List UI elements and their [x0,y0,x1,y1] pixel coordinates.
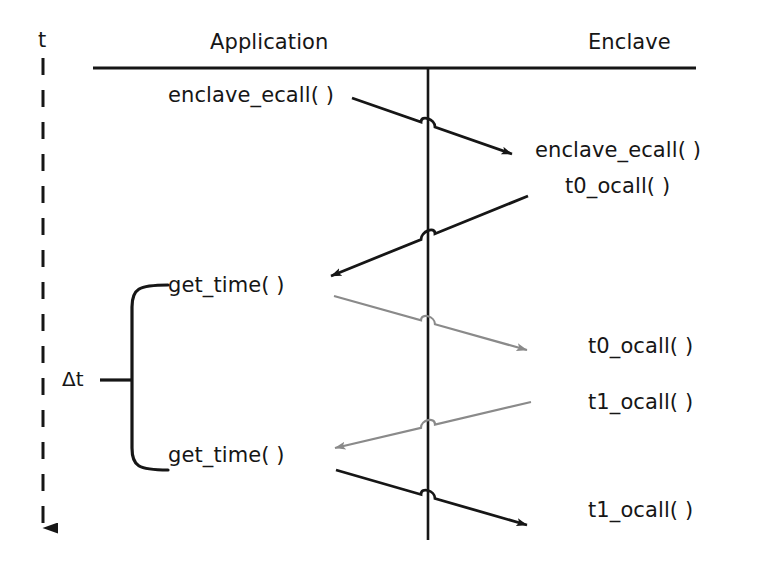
time-axis-label: t [38,30,46,51]
message-label-app-get-time-0: get_time( ) [168,275,285,296]
arrow-t1-ocall-out [335,402,531,448]
message-label-enc-t1-ocall-entry: t1_ocall( ) [588,392,693,413]
message-label-enc-t1-ocall-return: t1_ocall( ) [588,500,693,521]
delta-t-label: Δt [62,369,84,389]
message-label-enc-t0-ocall-return: t0_ocall( ) [588,336,693,357]
message-label-app-get-time-1: get_time( ) [168,445,285,466]
arrow-enclave-ecall-call [352,98,512,154]
column-header-application: Application [210,32,328,53]
diagram-vector-layer [0,0,759,571]
message-label-app-enclave-ecall: enclave_ecall( ) [168,85,334,106]
arrow-t1-ocall-return [336,470,527,525]
column-header-enclave: Enclave [588,32,671,53]
message-arrow-layer [331,98,531,525]
arrow-t0-ocall-out [331,196,528,276]
sequence-diagram-canvas: Application Enclave t Δt enclave_ecall( … [0,0,759,571]
message-label-enc-enclave-ecall: enclave_ecall( ) [535,140,701,161]
delta-t-brace [132,285,168,470]
arrow-t0-ocall-return [334,296,527,350]
message-label-enc-t0-ocall-entry: t0_ocall( ) [565,176,670,197]
